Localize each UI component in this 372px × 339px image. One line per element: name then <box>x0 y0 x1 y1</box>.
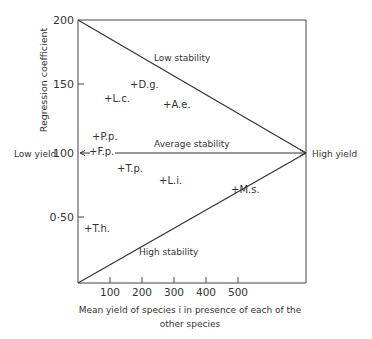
x-axis-label-line2: other species <box>160 319 221 329</box>
y-tick-label: 150 <box>53 78 74 91</box>
x-tick-label: 100 <box>100 286 120 298</box>
low-yield-label: Low yield <box>14 149 56 159</box>
x-tick-label: 300 <box>164 286 184 298</box>
lower-boundary-line <box>78 153 306 283</box>
point-li: +L.i. <box>159 175 182 186</box>
y-tick-label: 0·50 <box>50 211 75 224</box>
stability-chart: 200 150 100 0·50 100 200 300 400 500 Mea… <box>0 0 372 339</box>
point-th: +T.h. <box>84 223 110 234</box>
high-stability-label: High stability <box>139 247 199 257</box>
low-stability-label: Low stability <box>154 53 211 63</box>
point-dg: +D.g. <box>130 79 159 90</box>
x-tick-label: 200 <box>132 286 152 298</box>
x-tick-label: 400 <box>196 286 216 298</box>
x-tick-label: 500 <box>228 286 248 298</box>
point-ae: +A.e. <box>163 99 191 110</box>
point-fp: +F.p. <box>89 146 114 157</box>
x-axis-label-line1: Mean yield of species i in presence of e… <box>79 305 302 315</box>
point-pp: +P.p. <box>92 131 118 142</box>
point-ms: +M.s. <box>231 184 260 195</box>
high-yield-label: High yield <box>312 149 357 159</box>
y-tick-label: 200 <box>53 14 74 27</box>
y-axis-label: Regression coefficient <box>38 27 49 132</box>
point-lc: +L.c. <box>104 93 130 104</box>
average-stability-label: Average stability <box>154 139 230 149</box>
point-tp: +T.p. <box>117 163 143 174</box>
